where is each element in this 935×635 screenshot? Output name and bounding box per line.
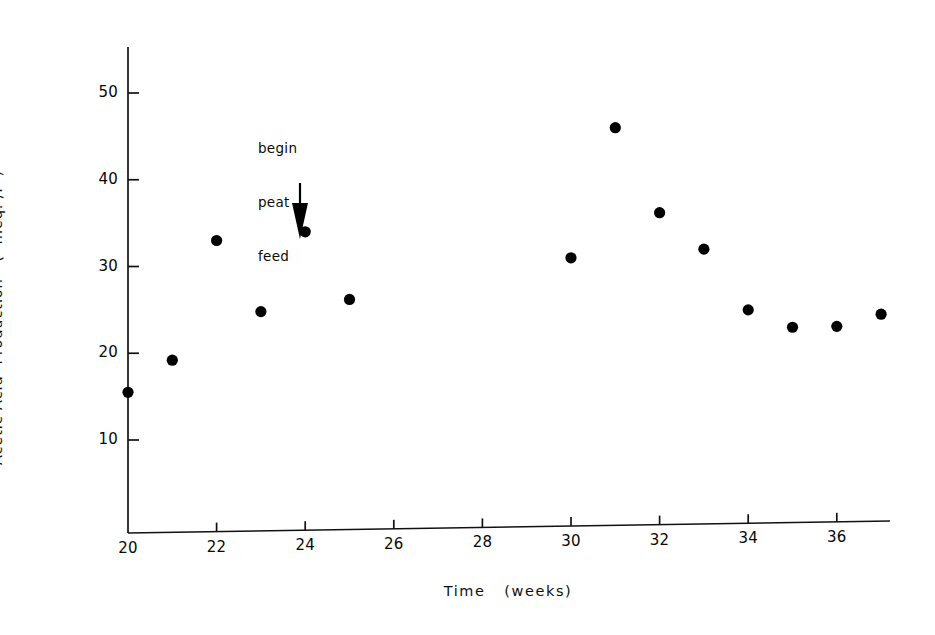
- data-point: [610, 122, 621, 133]
- data-point: [300, 226, 311, 237]
- data-point: [698, 244, 709, 255]
- chart-figure: Acetic Acid Production ( meq. /l ) Time …: [0, 0, 935, 635]
- data-point: [255, 306, 266, 317]
- data-point: [831, 321, 842, 332]
- data-point: [122, 387, 133, 398]
- data-point-group: [122, 122, 886, 398]
- data-point: [654, 207, 665, 218]
- plot-area: [0, 0, 935, 635]
- data-point: [787, 322, 798, 333]
- data-point: [565, 252, 576, 263]
- data-point: [211, 235, 222, 246]
- x-axis-line: [128, 521, 890, 533]
- data-point: [167, 355, 178, 366]
- data-point: [743, 304, 754, 315]
- data-point: [344, 294, 355, 305]
- x-tick-marks: [217, 513, 837, 532]
- data-point: [876, 309, 887, 320]
